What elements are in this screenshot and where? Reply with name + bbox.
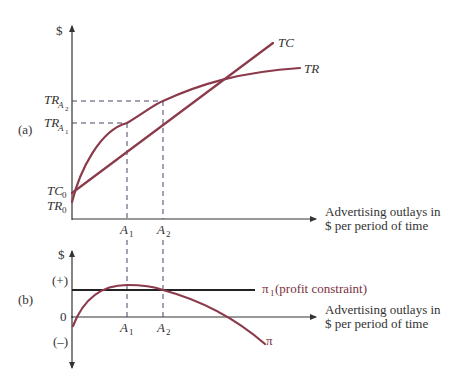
tr0-base: TR xyxy=(47,198,62,213)
a2-sub-a: 2 xyxy=(166,229,171,239)
tc0-base: TC xyxy=(47,183,63,198)
plus-label: (+) xyxy=(52,273,68,288)
a2-base-b: A xyxy=(156,320,165,335)
tr-a1-subsub: 1 xyxy=(65,128,69,136)
a2-base-a: A xyxy=(156,222,165,237)
tr-a2-subsub: 2 xyxy=(65,105,69,113)
y-tick-tr-a2: TR A 2 xyxy=(44,92,69,113)
x-tick-a2-b: A 2 xyxy=(156,320,171,337)
x-tick-a2-a: A 2 xyxy=(156,222,171,239)
tr-a2-base: TR xyxy=(44,92,59,107)
x-tick-a1-a: A 1 xyxy=(119,222,134,239)
panel-b: $ (+) (b) 0 (–) π 1 (profit constraint) … xyxy=(18,240,441,368)
panel-a: $ (a) TC TR TR A 2 TR A 1 TC 0 TR 0 xyxy=(18,23,441,239)
panel-b-y-axis-label: $ xyxy=(58,247,65,262)
a1-base-a: A xyxy=(119,222,128,237)
a1-sub-b: 1 xyxy=(129,327,134,337)
tr-a1-sub: A xyxy=(57,123,64,133)
a2-sub-b: 2 xyxy=(166,327,171,337)
panel-b-x-axis-label-line1: Advertising outlays in xyxy=(325,302,441,317)
profit-curve-label: π xyxy=(266,333,273,348)
tr-curve xyxy=(72,68,300,202)
tr-a2-sub: A xyxy=(57,100,64,110)
zero-label: 0 xyxy=(60,309,67,324)
y-tick-tr-a1: TR A 1 xyxy=(44,115,69,136)
advertising-profit-diagram: $ (a) TC TR TR A 2 TR A 1 TC 0 TR 0 xyxy=(0,0,449,385)
x-tick-a1-b: A 1 xyxy=(119,320,134,337)
a1-base-b: A xyxy=(119,320,128,335)
tc0-sub: 0 xyxy=(62,190,67,200)
tr-a1-base: TR xyxy=(44,115,59,130)
y-tick-tr0: TR 0 xyxy=(47,198,67,215)
constraint-text: (profit constraint) xyxy=(275,281,367,296)
panel-a-x-axis-label-line2: $ per period of time xyxy=(325,218,428,233)
tr-curve-label: TR xyxy=(304,61,319,76)
panel-a-tag: (a) xyxy=(18,122,32,137)
constraint-sub: 1 xyxy=(270,288,275,298)
profit-constraint-label: π 1 (profit constraint) xyxy=(262,281,367,298)
panel-a-x-axis-label-line1: Advertising outlays in xyxy=(325,204,441,219)
tc-curve xyxy=(72,43,273,193)
panel-b-x-axis-label-line2: $ per period of time xyxy=(325,316,428,331)
minus-label: (–) xyxy=(53,334,68,349)
panel-b-tag: (b) xyxy=(18,292,33,307)
tc-curve-label: TC xyxy=(278,35,294,50)
constraint-symbol: π xyxy=(262,281,269,296)
a1-sub-a: 1 xyxy=(129,229,134,239)
panel-a-y-axis-label: $ xyxy=(56,23,63,38)
tr0-sub: 0 xyxy=(62,205,67,215)
